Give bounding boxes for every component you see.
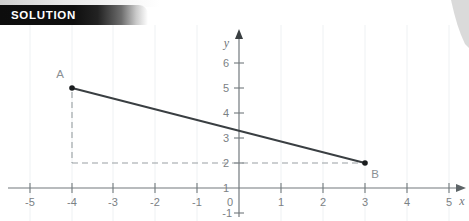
x-axis-label: x [458, 194, 465, 208]
x-tick-label: 5 [446, 196, 452, 208]
y-tick-label: 4 [223, 107, 229, 119]
x-tick-label: -1 [192, 196, 202, 208]
y-axis [235, 29, 243, 217]
y-tick-label-negative: -1 [222, 207, 232, 219]
y-tick-label: 1 [223, 182, 229, 194]
y-axis-label: y [223, 36, 230, 50]
y-tick-labels: 6 5 4 3 2 1 -1 [222, 57, 232, 219]
x-tick-label: 4 [404, 196, 410, 208]
x-tick-label: 3 [362, 196, 368, 208]
y-tick-label: 6 [223, 57, 229, 69]
corner-decoration-tab [439, 0, 469, 48]
point-a-label: A [56, 68, 64, 80]
x-tick-label: 2 [320, 196, 326, 208]
x-tick-label: -4 [67, 196, 77, 208]
corner-tab-shape [451, 0, 469, 48]
x-axis [8, 184, 466, 192]
point-b-label: B [371, 168, 379, 180]
y-tick-label: 5 [223, 82, 229, 94]
x-tick-label: -5 [25, 196, 35, 208]
solution-banner-label: SOLUTION [0, 9, 76, 21]
solution-banner: SOLUTION [0, 5, 148, 25]
segment-ab [72, 88, 365, 163]
y-tick-label: 3 [223, 132, 229, 144]
point-a [69, 85, 75, 91]
x-tick-label: 1 [278, 196, 284, 208]
x-tick-label: -3 [108, 196, 118, 208]
x-tick-label: -2 [150, 196, 160, 208]
point-b [362, 160, 368, 166]
coordinate-plane-chart: -5 -4 -3 -2 -1 0 1 2 3 4 5 6 5 4 3 2 1 -… [0, 25, 469, 221]
